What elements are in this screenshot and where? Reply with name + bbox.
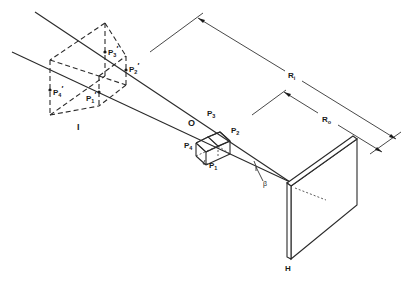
label-p4: P4 bbox=[184, 141, 193, 151]
rays bbox=[12, 12, 326, 200]
image-point-p1 bbox=[97, 90, 100, 93]
upper-ray bbox=[35, 12, 290, 182]
image-point-p4 bbox=[48, 88, 51, 91]
image-point-p2 bbox=[124, 68, 127, 71]
label-p3-prime: P3′ bbox=[108, 44, 118, 58]
label-image-I: I bbox=[77, 122, 80, 132]
label-p2-prime: P2′ bbox=[129, 61, 139, 75]
hologram-plate: H bbox=[285, 136, 357, 273]
image-point-p3 bbox=[103, 50, 106, 53]
label-p2: P2 bbox=[231, 126, 239, 136]
label-ro: Ro bbox=[322, 115, 332, 125]
label-p1-prime: P1′ bbox=[86, 90, 96, 104]
hologram-geometry-diagram: P3′ P2′ P1′ P4′ I O P3 P2 P4 P1 bbox=[0, 0, 412, 282]
label-object-O: O bbox=[188, 118, 195, 128]
dimension-ri: Ri bbox=[150, 13, 401, 154]
label-ri: Ri bbox=[288, 71, 296, 81]
label-p4-prime: P4′ bbox=[53, 84, 63, 98]
dimension-ro: Ro bbox=[252, 90, 382, 152]
label-p3: P3 bbox=[207, 109, 215, 119]
label-beta: β bbox=[263, 180, 267, 188]
lower-ray bbox=[12, 52, 290, 182]
label-hologram-H: H bbox=[285, 264, 291, 273]
label-p1: P1 bbox=[209, 161, 217, 171]
